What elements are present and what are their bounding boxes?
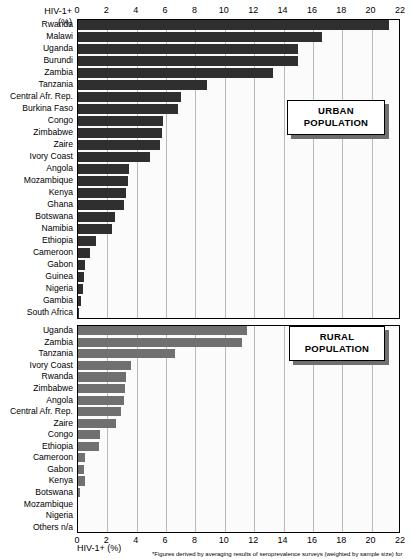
gridline xyxy=(284,326,285,532)
category-label: Gambia xyxy=(1,296,73,305)
x-tick-label: 4 xyxy=(125,535,147,545)
category-label: Uganda xyxy=(1,326,73,335)
bar-rural xyxy=(78,453,85,462)
bar-urban xyxy=(78,248,90,258)
category-label: Nigeria xyxy=(1,511,73,520)
category-label: Zaire xyxy=(1,140,73,149)
legend-callout-rural-line2: POPULATION xyxy=(290,343,384,355)
legend-callout-urban: URBAN POPULATION xyxy=(287,100,385,135)
bar-rural xyxy=(78,442,99,451)
category-label: Central Afr. Rep. xyxy=(1,407,73,416)
x-tick-label: 16 xyxy=(301,5,323,15)
legend-callout-urban-line1: URBAN xyxy=(288,105,384,117)
bar-urban xyxy=(78,116,163,126)
category-label: Burundi xyxy=(1,56,73,65)
category-label: Botswana xyxy=(1,488,73,497)
category-label: Ivory Coast xyxy=(1,361,73,370)
category-label: Uganda xyxy=(1,44,73,53)
category-label: Central Afr. Rep. xyxy=(1,92,73,101)
category-label: Namibia xyxy=(1,224,73,233)
x-tick-label: 0 xyxy=(66,5,88,15)
bar-rural xyxy=(78,326,247,335)
x-tick-label: 10 xyxy=(213,5,235,15)
x-tick-label: 8 xyxy=(183,5,205,15)
category-label: Zimbabwe xyxy=(1,128,73,137)
category-label: Mozambique xyxy=(1,176,73,185)
x-tick-label: 8 xyxy=(183,535,205,545)
x-tick-label: 6 xyxy=(154,5,176,15)
bar-rural xyxy=(78,384,125,393)
x-tick-label: 2 xyxy=(95,5,117,15)
legend-callout-rural: RURAL POPULATION xyxy=(289,326,385,361)
category-label: Zimbabwe xyxy=(1,384,73,393)
category-label: Malawi xyxy=(1,32,73,41)
axis-title-bottom: HIV-1+ (%) xyxy=(77,543,121,553)
bar-rural xyxy=(78,338,242,347)
category-label: Cameroon xyxy=(1,453,73,462)
hiv-prevalence-chart: HIV-1+ (%) 0246810121416182022 RwandaMal… xyxy=(0,0,410,559)
category-label: Ivory Coast xyxy=(1,152,73,161)
bar-urban xyxy=(78,176,128,186)
bar-rural xyxy=(78,430,100,439)
category-label: Congo xyxy=(1,430,73,439)
x-tick-label: 12 xyxy=(242,535,264,545)
bar-urban xyxy=(78,296,81,306)
x-tick-label: 18 xyxy=(330,5,352,15)
bar-urban xyxy=(78,236,96,246)
category-label: Nigeria xyxy=(1,284,73,293)
category-label: Kenya xyxy=(1,188,73,197)
bar-rural xyxy=(78,476,85,485)
bar-rural xyxy=(78,349,175,358)
category-label: Ethiopia xyxy=(1,236,73,245)
legend-callout-urban-line2: POPULATION xyxy=(288,117,384,129)
bar-rural xyxy=(78,396,124,405)
bar-rural xyxy=(78,488,80,497)
category-label: Gabon xyxy=(1,465,73,474)
x-tick-label: 12 xyxy=(242,5,264,15)
category-label: Tanzania xyxy=(1,349,73,358)
category-label: Botswana xyxy=(1,212,73,221)
bar-urban xyxy=(78,44,298,54)
bar-urban xyxy=(78,200,124,210)
x-tick-label: 16 xyxy=(301,535,323,545)
gridline xyxy=(342,20,343,318)
bar-urban xyxy=(78,68,273,78)
category-label: Burkina Faso xyxy=(1,104,73,113)
category-label: Rwanda xyxy=(1,20,73,29)
bar-urban xyxy=(78,56,298,66)
category-label: Zaire xyxy=(1,419,73,428)
bar-urban xyxy=(78,188,126,198)
x-tick-label: 14 xyxy=(272,5,294,15)
category-label: Congo xyxy=(1,116,73,125)
bar-urban xyxy=(78,152,150,162)
category-label: Mozambique xyxy=(1,500,73,509)
bar-urban xyxy=(78,20,389,30)
bar-urban xyxy=(78,140,160,150)
category-label: Cameroon xyxy=(1,248,73,257)
legend-callout-rural-line1: RURAL xyxy=(290,331,384,343)
bar-urban xyxy=(78,308,79,318)
category-label: South Africa xyxy=(1,308,73,317)
x-tick-label: 4 xyxy=(125,5,147,15)
bar-urban xyxy=(78,128,162,138)
bar-rural xyxy=(78,407,121,416)
category-label: Rwanda xyxy=(1,372,73,381)
axis-title-top-line1: HIV-1+ xyxy=(20,6,72,16)
bar-rural xyxy=(78,465,84,474)
bar-urban xyxy=(78,104,178,114)
category-label: Ghana xyxy=(1,200,73,209)
bar-rural xyxy=(78,419,116,428)
bar-urban xyxy=(78,272,84,282)
category-label: Zambia xyxy=(1,68,73,77)
category-label: Zambia xyxy=(1,338,73,347)
gridline xyxy=(313,20,314,318)
gridline xyxy=(225,326,226,532)
category-label: Others n/a xyxy=(1,523,73,532)
bar-urban xyxy=(78,92,181,102)
bar-urban xyxy=(78,260,85,270)
gridline xyxy=(254,326,255,532)
category-label: Tanzania xyxy=(1,80,73,89)
category-label: Angola xyxy=(1,164,73,173)
category-label: Kenya xyxy=(1,476,73,485)
x-tick-label: 6 xyxy=(154,535,176,545)
